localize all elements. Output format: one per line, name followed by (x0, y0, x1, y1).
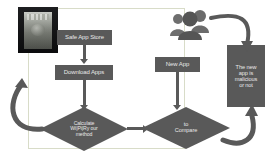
node-calculate-method-line-3: method (76, 131, 93, 137)
edge-safe-store-to-download-arrow (80, 59, 88, 64)
node-download-apps-label: Download Apps (64, 69, 104, 75)
node-calculate-method[interactable]: Calculate Wi|Pi|Ry our method (40, 107, 128, 151)
node-safe-app-store[interactable]: Safe App Store (57, 30, 112, 45)
edge-newapp-to-compare (176, 72, 179, 107)
edge-download-to-calculate (83, 80, 86, 107)
edge-users-to-malicious (205, 8, 275, 54)
node-compare[interactable]: to Compare (142, 107, 230, 149)
smartphone-photo (18, 7, 58, 53)
node-download-apps[interactable]: Download Apps (55, 65, 113, 80)
diagram-canvas: Safe App Store Download Apps Calculate W… (0, 0, 275, 167)
node-new-app[interactable]: New App (155, 57, 200, 72)
node-malicious-or-not[interactable]: The new app is malicious or not (227, 45, 265, 107)
node-compare-line-2: Compare (175, 127, 197, 133)
node-new-app-label: New App (166, 61, 189, 67)
node-safe-app-store-label: Safe App Store (65, 34, 104, 40)
node-malicious-or-not-line-4: or not (239, 82, 253, 88)
